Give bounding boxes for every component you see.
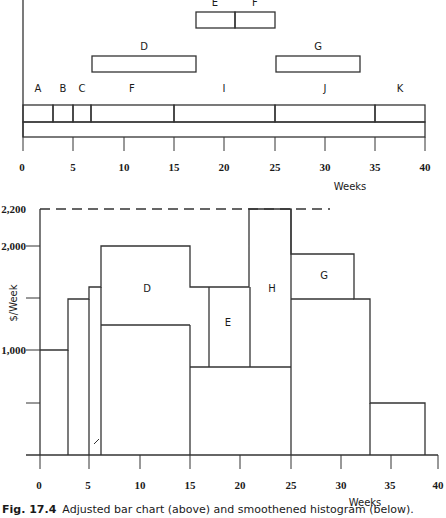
tick-40: 40 [420,161,432,173]
btick-40: 40 [433,479,445,491]
tick-5: 5 [70,161,76,173]
btick-25: 25 [286,479,298,491]
bar-F [91,105,174,122]
label-F: F [129,83,135,94]
ytick-1000: 1,000 [1,344,26,356]
top-x-ticks [23,137,425,151]
bar-C [73,105,91,122]
label-C: C [79,83,86,94]
hist-label-H: H [268,283,276,294]
bottom-y-tick-labels: 2,200 2,000 1,000 [1,203,26,356]
ytick-2200: 2,200 [1,203,26,215]
btick-0: 0 [36,479,42,491]
bar-B [53,105,73,122]
tick-30: 30 [320,161,332,173]
bottom-x-tick-labels: 0 5 10 15 20 25 30 35 40 [36,479,444,491]
btick-15: 15 [185,479,197,491]
label-F-upper: F [252,0,258,8]
label-A: A [35,83,42,94]
bar-G [276,56,360,72]
btick-10: 10 [135,479,147,491]
label-K: K [397,83,404,94]
figure-caption-text: Adjusted bar chart (above) and smoothene… [62,503,414,516]
btick-35: 35 [385,479,397,491]
label-E: E [212,0,218,8]
bar-F-upper [235,12,275,28]
btick-5: 5 [85,479,91,491]
smoothened-histogram [26,209,438,469]
top-baseline-row [23,122,425,137]
figure: A B C F I J K D G E F 0 5 10 15 20 25 30… [0,0,446,518]
histogram-outline [40,209,425,455]
top-x-tick-labels: 0 5 10 15 20 25 30 35 40 [19,161,431,173]
label-D: D [140,41,148,52]
hist-label-G: G [320,270,328,281]
bar-D [92,56,196,72]
tick-15: 15 [169,161,181,173]
bar-E [196,12,235,28]
bar-A [23,105,53,122]
label-I: I [223,83,226,94]
tick-25: 25 [270,161,282,173]
bar-J [275,105,375,122]
slash-mark [94,439,99,444]
figure-caption: Fig. 17.4Adjusted bar chart (above) and … [2,503,414,516]
bottom-y-ticks [26,246,40,403]
tick-35: 35 [370,161,382,173]
label-J: J [323,83,327,94]
figure-number: Fig. 17.4 [2,503,56,516]
bottom-y-axis-title: $/Week [8,284,19,321]
hist-label-E: E [225,317,231,328]
bottom-x-ticks [40,455,438,469]
top-bar-labels: A B C F I J K D G E F [35,0,404,94]
tick-10: 10 [119,161,131,173]
tick-0: 0 [19,161,25,173]
btick-30: 30 [336,479,348,491]
btick-20: 20 [235,479,247,491]
label-B: B [60,83,67,94]
tick-20: 20 [219,161,231,173]
label-G: G [314,41,322,52]
hist-label-D: D [143,283,151,294]
ytick-2000: 2,000 [1,240,26,252]
bar-I [174,105,275,122]
bar-K [375,105,425,122]
top-x-axis-title: Weeks [334,181,367,192]
adjusted-bar-chart [23,0,425,151]
